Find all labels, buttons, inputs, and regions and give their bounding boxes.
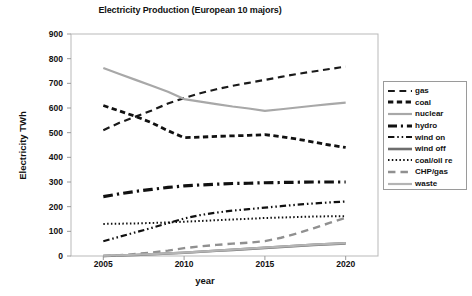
chart-container: Electricity Production (European 10 majo…: [0, 0, 472, 296]
legend-line-swatch: [387, 86, 413, 96]
legend-item-label: waste: [413, 179, 437, 188]
legend-item-label: wind off: [413, 144, 446, 153]
legend-line-swatch: [387, 167, 413, 177]
legend-line-swatch: [387, 144, 413, 154]
legend-item-label: CHP/gas: [413, 167, 448, 176]
legend-item-waste[interactable]: waste: [384, 178, 466, 190]
legend-item-label: wind on: [413, 133, 445, 142]
legend-line-swatch: [387, 155, 413, 165]
legend-item-label: coal/oil re: [413, 156, 452, 165]
legend-item-label: coal: [413, 98, 431, 107]
legend-item-label: gas: [413, 86, 429, 95]
legend-line-swatch: [387, 132, 413, 142]
legend-item-gas[interactable]: gas: [384, 85, 466, 97]
legend-item-nuclear[interactable]: nuclear: [384, 108, 466, 120]
legend-line-swatch: [387, 179, 413, 189]
legend-item-coal-oil-re[interactable]: coal/oil re: [384, 155, 466, 167]
legend-item-wind-off[interactable]: wind off: [384, 143, 466, 155]
legend-item-chp-gas[interactable]: CHP/gas: [384, 166, 466, 178]
legend-item-wind-on[interactable]: wind on: [384, 131, 466, 143]
legend-item-hydro[interactable]: hydro: [384, 120, 466, 132]
legend-line-swatch: [387, 109, 413, 119]
legend-item-label: nuclear: [413, 109, 443, 118]
legend-line-swatch: [387, 97, 413, 107]
legend-line-swatch: [387, 121, 413, 131]
legend-item-coal[interactable]: coal: [384, 97, 466, 109]
legend-item-label: hydro: [413, 121, 437, 130]
chart-legend: gascoalnuclearhydrowind onwind offcoal/o…: [383, 81, 467, 190]
